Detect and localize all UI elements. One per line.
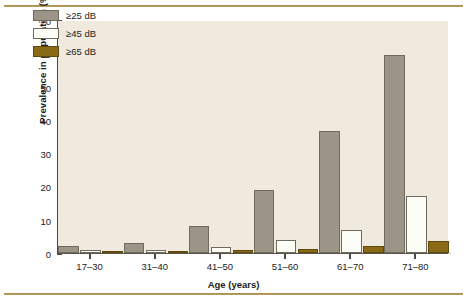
bar-shadow xyxy=(82,253,103,254)
y-tick-label: 50 xyxy=(22,82,51,93)
y-tick-label: 10 xyxy=(22,215,51,226)
legend-label: ≥65 dB xyxy=(66,46,96,57)
figure-container: Prevalence in population (%) 01020304050… xyxy=(0,0,467,305)
bar-shadow xyxy=(148,253,169,254)
bar xyxy=(384,55,405,253)
legend-item: ≥65 dB xyxy=(33,43,96,59)
bar xyxy=(146,250,167,253)
bar xyxy=(189,226,210,253)
x-axis-title: Age (years) xyxy=(0,279,467,290)
bar xyxy=(168,251,189,253)
legend-swatch xyxy=(33,28,59,39)
bar xyxy=(298,249,319,253)
x-tick-mark xyxy=(349,254,351,259)
y-tick-label: 30 xyxy=(22,149,51,160)
bars-layer xyxy=(58,21,448,253)
bar xyxy=(363,246,384,253)
x-tick-mark xyxy=(89,254,91,259)
x-tick-label: 31–40 xyxy=(120,261,190,272)
bar-shadow xyxy=(278,253,299,254)
bar xyxy=(406,196,427,253)
bar-shadow xyxy=(104,253,125,254)
bar xyxy=(319,131,340,253)
bar xyxy=(254,190,275,253)
x-tick-label: 17–30 xyxy=(55,261,125,272)
legend-item: ≥25 dB xyxy=(33,7,96,23)
bar-shadow xyxy=(60,253,81,254)
legend-swatch xyxy=(33,46,59,57)
plot-area xyxy=(57,21,448,254)
x-tick-label: 71–80 xyxy=(380,261,450,272)
bar-shadow xyxy=(365,253,386,254)
bar-shadow xyxy=(300,253,321,254)
chart-legend: ≥25 dB≥45 dB≥65 dB xyxy=(33,7,96,61)
legend-label: ≥25 dB xyxy=(66,10,96,21)
y-tick-label: 0 xyxy=(22,249,51,260)
x-tick-label: 51–60 xyxy=(250,261,320,272)
bar xyxy=(124,243,145,253)
legend-label: ≥45 dB xyxy=(66,28,96,39)
legend-swatch xyxy=(33,10,59,21)
bar xyxy=(211,247,232,253)
bar-shadow xyxy=(386,253,407,254)
x-tick-label: 41–50 xyxy=(185,261,255,272)
y-tick-label: 40 xyxy=(22,115,51,126)
x-tick-mark xyxy=(219,254,221,259)
bar-shadow xyxy=(126,253,147,254)
bar xyxy=(102,251,123,253)
bar-shadow xyxy=(191,253,212,254)
bar-shadow xyxy=(321,253,342,254)
x-tick-mark xyxy=(284,254,286,259)
bar-shadow xyxy=(170,253,191,254)
bar xyxy=(341,230,362,253)
bar-shadow xyxy=(343,253,364,254)
bar xyxy=(58,246,79,253)
bar-shadow xyxy=(408,253,429,254)
x-tick-mark xyxy=(154,254,156,259)
bar-shadow xyxy=(256,253,277,254)
y-tick-label: 20 xyxy=(22,182,51,193)
bar xyxy=(233,250,254,253)
bar xyxy=(428,241,449,253)
x-tick-mark xyxy=(414,254,416,259)
bar-shadow xyxy=(213,253,234,254)
legend-item: ≥45 dB xyxy=(33,25,96,41)
bar-shadow xyxy=(235,253,256,254)
x-tick-label: 61–70 xyxy=(315,261,385,272)
bar xyxy=(276,240,297,253)
bottom-divider-rule xyxy=(4,293,463,295)
bar-shadow xyxy=(430,253,451,254)
bar xyxy=(80,250,101,253)
